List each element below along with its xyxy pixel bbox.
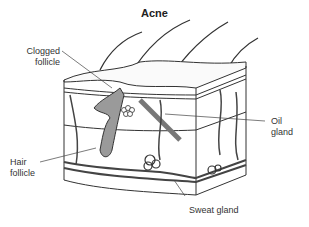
label-line: Oil: [271, 116, 293, 127]
label-line: gland: [271, 127, 293, 138]
label-line: follicle: [10, 168, 35, 179]
skin-cross-section-illustration: [0, 0, 309, 227]
label-sweat-gland: Sweat gland: [189, 205, 239, 216]
label-line: Hair: [10, 157, 35, 168]
label-oil-gland: Oil gland: [271, 116, 293, 138]
label-hair-follicle: Hair follicle: [10, 157, 35, 179]
oil-gland-cluster: [122, 106, 135, 117]
label-line: follicle: [12, 57, 60, 68]
blood-vessels: [70, 90, 238, 165]
label-line: Clogged: [12, 46, 60, 57]
label-clogged-follicle: Clogged follicle: [12, 46, 60, 68]
